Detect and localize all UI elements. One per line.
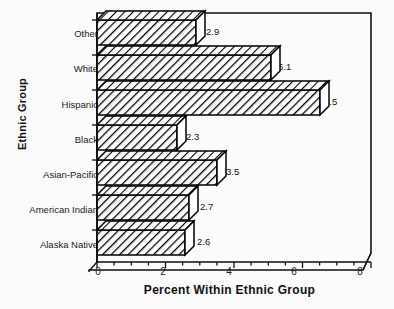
bar-black bbox=[97, 116, 186, 150]
bar-hispanic bbox=[97, 81, 329, 115]
plot-area bbox=[0, 0, 394, 309]
bar-other bbox=[97, 11, 205, 45]
bar-alaska-native bbox=[97, 221, 194, 255]
bar-american-indian bbox=[97, 186, 198, 220]
bar-chart: Ethnic Group Percent Within Ethnic Group… bbox=[0, 0, 394, 309]
bar-white bbox=[97, 46, 280, 80]
x-axis-ticks bbox=[97, 262, 371, 268]
bar-asian-pacific bbox=[97, 151, 226, 185]
